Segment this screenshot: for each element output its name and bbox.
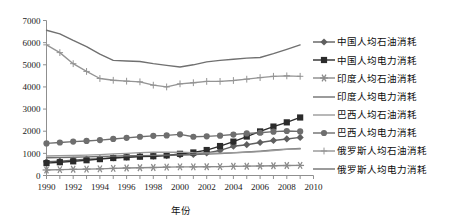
- svg-text:6000: 6000: [23, 38, 42, 48]
- svg-text:5000: 5000: [23, 60, 42, 70]
- legend-item-label: 俄罗斯人均石油消耗: [336, 146, 427, 156]
- legend-marker-diamond-icon: [312, 35, 336, 49]
- svg-text:2000: 2000: [23, 126, 42, 136]
- series-2: [43, 162, 304, 173]
- svg-text:3000: 3000: [23, 104, 42, 114]
- legend-item-label: 印度人均石油消耗: [336, 74, 417, 84]
- x-axis-ticks: [47, 176, 314, 180]
- svg-text:1996: 1996: [118, 182, 137, 192]
- x-axis-tick-labels: 1990199219941996199820002002200420062008…: [38, 182, 324, 192]
- svg-text:2004: 2004: [224, 182, 243, 192]
- legend-marker-circle-icon: [312, 126, 336, 140]
- legend-item-label: 巴西人均电力消耗: [336, 128, 417, 138]
- svg-text:4000: 4000: [23, 82, 42, 92]
- legend-item-label: 印度人均电力消耗: [336, 92, 417, 102]
- legend-item-label: 中国人均石油消耗: [336, 37, 417, 47]
- legend-item[interactable]: 巴西人均电力消耗: [312, 124, 454, 142]
- svg-text:1998: 1998: [144, 182, 163, 192]
- svg-text:2010: 2010: [305, 182, 324, 192]
- legend-item[interactable]: 中国人均石油消耗: [312, 33, 454, 51]
- series-3: [47, 148, 301, 157]
- legend-item-label: 中国人均电力消耗: [336, 56, 417, 66]
- svg-text:2008: 2008: [278, 182, 297, 192]
- svg-text:2000: 2000: [171, 182, 190, 192]
- x-axis-title: 年份: [171, 205, 191, 216]
- series-5: [43, 128, 303, 147]
- svg-text:1990: 1990: [38, 182, 57, 192]
- y-axis-tick-labels: 01000200030004000500060007000: [23, 16, 42, 181]
- data-series-layer: [43, 30, 304, 173]
- legend-item[interactable]: 俄罗斯人均石油消耗: [312, 142, 454, 160]
- legend-item[interactable]: 印度人均电力消耗: [312, 88, 454, 106]
- legend-marker-none-icon: [312, 90, 336, 104]
- legend-item[interactable]: 俄罗斯人均电力消耗: [312, 160, 454, 178]
- y-axis-ticks: [43, 21, 47, 176]
- legend-marker-star-icon: [312, 71, 336, 85]
- line-chart-figure: 01000200030004000500060007000 1990199219…: [0, 0, 454, 218]
- svg-text:1992: 1992: [64, 182, 82, 192]
- svg-text:1994: 1994: [91, 182, 110, 192]
- series-1: [43, 114, 303, 166]
- legend-marker-plus-icon: [312, 144, 336, 158]
- legend-marker-none-icon: [312, 108, 336, 122]
- legend-marker-none-icon: [312, 162, 336, 176]
- legend-item[interactable]: 巴西人均石油消耗: [312, 106, 454, 124]
- svg-text:2002: 2002: [198, 182, 216, 192]
- legend-marker-square-icon: [312, 53, 336, 67]
- svg-text:1000: 1000: [23, 149, 42, 159]
- svg-text:7000: 7000: [23, 16, 42, 26]
- series-7: [47, 30, 301, 67]
- legend-item-label: 俄罗斯人均电力消耗: [336, 165, 427, 175]
- legend-item[interactable]: 中国人均电力消耗: [312, 51, 454, 69]
- chart-legend: 中国人均石油消耗中国人均电力消耗印度人均石油消耗印度人均电力消耗巴西人均石油消耗…: [312, 33, 454, 179]
- legend-item[interactable]: 印度人均石油消耗: [312, 69, 454, 87]
- svg-text:0: 0: [36, 171, 41, 181]
- svg-text:2006: 2006: [251, 182, 270, 192]
- legend-item-label: 巴西人均石油消耗: [336, 110, 417, 120]
